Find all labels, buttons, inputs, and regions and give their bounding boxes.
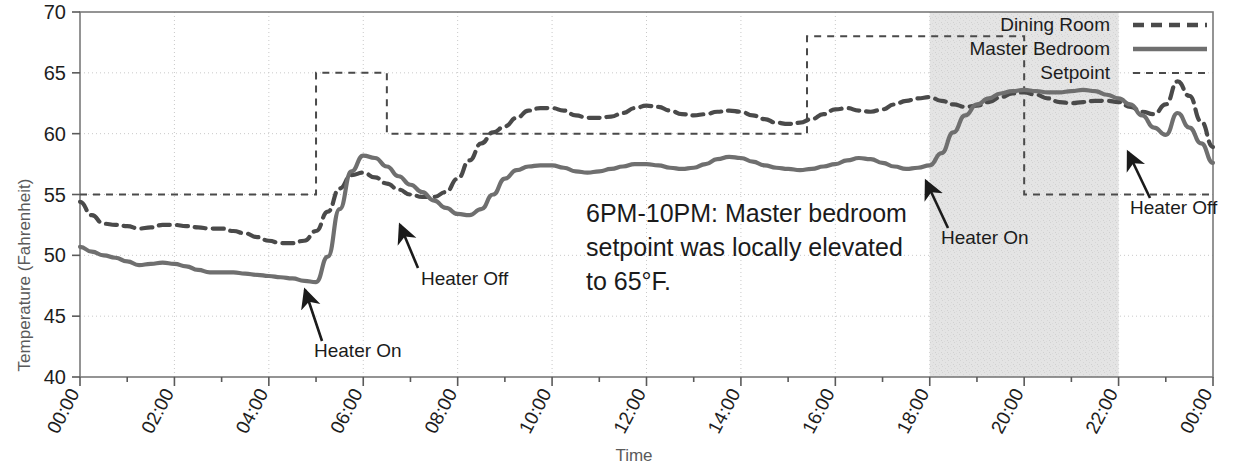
x-tick-label: 22:00 [1081,385,1122,437]
temperature-chart-figure: 40455055606570 00:0002:0004:0006:0008:00… [0,0,1234,473]
y-tick-label: 60 [44,123,66,145]
x-tick-label: 16:00 [798,385,839,437]
y-axis-ticks: 40455055606570 [44,1,80,388]
x-tick-label: 06:00 [326,385,367,437]
x-tick-label: 14:00 [704,385,745,437]
chart-canvas: 40455055606570 00:0002:0004:0006:0008:00… [0,0,1234,473]
y-tick-label: 65 [44,62,66,84]
y-tick-label: 40 [44,366,66,388]
x-tick-label: 00:00 [43,385,84,437]
y-tick-label: 50 [44,244,66,266]
x-tick-label: 04:00 [232,385,273,437]
y-tick-label: 55 [44,184,66,206]
x-axis-ticks: 00:0002:0004:0006:0008:0010:0012:0014:00… [43,377,1217,437]
x-tick-label: 12:00 [609,385,650,437]
y-tick-label: 45 [44,305,66,327]
x-tick-label: 00:00 [1176,385,1217,437]
x-tick-label: 02:00 [137,385,178,437]
y-tick-label: 70 [44,1,66,23]
x-tick-label: 20:00 [987,385,1028,437]
x-tick-label: 18:00 [892,385,933,437]
x-tick-label: 08:00 [420,385,461,437]
x-tick-label: 10:00 [515,385,556,437]
